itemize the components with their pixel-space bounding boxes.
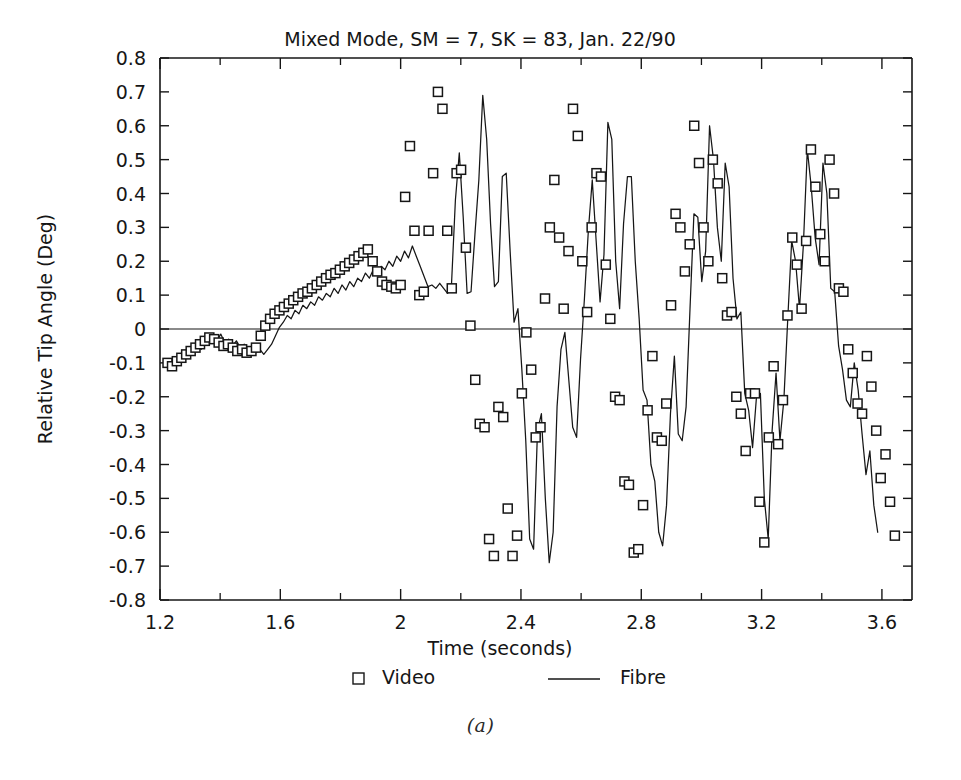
video-marker xyxy=(648,352,657,361)
video-marker xyxy=(251,343,260,352)
video-marker xyxy=(718,274,727,283)
video-marker xyxy=(816,230,825,239)
chart-title: Mixed Mode, SM = 7, SK = 83, Jan. 22/90 xyxy=(284,28,676,50)
video-marker xyxy=(639,501,648,510)
video-marker xyxy=(792,260,801,269)
video-marker xyxy=(862,352,871,361)
y-tick-label: -0.7 xyxy=(109,555,146,577)
video-marker xyxy=(876,474,885,483)
y-tick-label: 0.4 xyxy=(116,183,146,205)
video-marker xyxy=(443,226,452,235)
video-marker xyxy=(848,369,857,378)
x-axis-title: Time (seconds) xyxy=(426,637,572,659)
video-marker xyxy=(830,189,839,198)
legend-fibre-label: Fibre xyxy=(620,666,666,688)
x-tick-label: 3.2 xyxy=(746,611,776,633)
video-marker xyxy=(774,440,783,449)
video-marker xyxy=(564,247,573,256)
video-marker xyxy=(401,192,410,201)
video-marker xyxy=(867,382,876,391)
video-marker xyxy=(438,104,447,113)
video-marker xyxy=(643,406,652,415)
x-tick-label: 2 xyxy=(395,611,407,633)
video-marker xyxy=(256,331,265,340)
video-marker xyxy=(657,436,666,445)
video-marker xyxy=(667,301,676,310)
video-marker xyxy=(676,223,685,232)
y-tick-label: -0.3 xyxy=(109,420,146,442)
video-marker xyxy=(853,399,862,408)
video-marker xyxy=(545,223,554,232)
video-marker xyxy=(671,209,680,218)
x-tick-label: 2.8 xyxy=(626,611,656,633)
video-marker xyxy=(760,538,769,547)
video-marker xyxy=(480,423,489,432)
video-marker xyxy=(499,413,508,422)
y-tick-label: -0.4 xyxy=(109,454,146,476)
video-marker xyxy=(820,257,829,266)
video-marker xyxy=(615,396,624,405)
video-marker xyxy=(419,287,428,296)
video-marker xyxy=(587,223,596,232)
video-marker xyxy=(513,531,522,540)
video-marker xyxy=(839,287,848,296)
video-marker xyxy=(447,284,456,293)
video-marker xyxy=(890,531,899,540)
y-tick-label: 0.8 xyxy=(116,47,146,69)
video-marker xyxy=(457,165,466,174)
chart-canvas: Mixed Mode, SM = 7, SK = 83, Jan. 22/90 … xyxy=(0,0,961,710)
video-marker xyxy=(708,155,717,164)
figure-root: Mixed Mode, SM = 7, SK = 83, Jan. 22/90 … xyxy=(0,0,961,780)
video-marker xyxy=(531,433,540,442)
video-marker xyxy=(806,145,815,154)
video-marker xyxy=(494,402,503,411)
video-marker xyxy=(583,308,592,317)
video-marker xyxy=(466,321,475,330)
video-marker xyxy=(750,389,759,398)
y-tick-label: -0.2 xyxy=(109,386,146,408)
video-marker xyxy=(601,260,610,269)
video-marker xyxy=(695,159,704,168)
video-marker xyxy=(410,226,419,235)
video-marker xyxy=(429,169,438,178)
y-tick-label: -0.5 xyxy=(109,487,146,509)
video-marker xyxy=(527,365,536,374)
y-tick-label: 0.3 xyxy=(116,216,146,238)
video-marker xyxy=(368,257,377,266)
y-tick-label: -0.1 xyxy=(109,352,146,374)
y-tick-label: -0.6 xyxy=(109,521,146,543)
x-tick-label: 2.4 xyxy=(506,611,536,633)
video-marker xyxy=(396,280,405,289)
video-marker xyxy=(373,267,382,276)
video-marker xyxy=(433,87,442,96)
video-marker xyxy=(363,245,372,254)
video-marker xyxy=(788,233,797,242)
video-marker xyxy=(517,389,526,398)
legend-video-square-icon xyxy=(353,673,364,684)
video-marker xyxy=(802,236,811,245)
y-tick-label: 0.5 xyxy=(116,149,146,171)
x-tick-label: 1.6 xyxy=(265,611,295,633)
video-marker xyxy=(755,497,764,506)
y-tick-label: 0.2 xyxy=(116,250,146,272)
video-marker xyxy=(541,294,550,303)
video-marker xyxy=(858,409,867,418)
video-marker xyxy=(555,233,564,242)
figure-caption: (a) xyxy=(0,714,961,736)
video-marker xyxy=(811,182,820,191)
video-marker xyxy=(844,345,853,354)
video-marker xyxy=(764,433,773,442)
video-marker xyxy=(783,311,792,320)
video-marker xyxy=(461,243,470,252)
video-marker xyxy=(704,257,713,266)
video-marker xyxy=(550,175,559,184)
video-marker xyxy=(741,446,750,455)
y-axis-title: Relative Tip Angle (Deg) xyxy=(34,214,56,444)
video-marker xyxy=(732,392,741,401)
video-marker xyxy=(596,172,605,181)
y-tick-label: 0 xyxy=(134,318,146,340)
video-marker xyxy=(536,423,545,432)
video-marker xyxy=(522,328,531,337)
video-marker xyxy=(508,551,517,560)
video-marker xyxy=(662,399,671,408)
